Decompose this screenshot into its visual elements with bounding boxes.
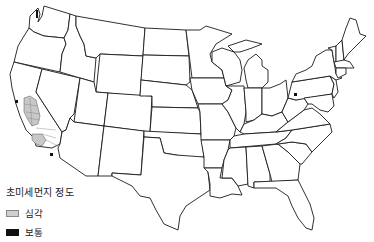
moderate-area-puget-sound <box>36 10 38 18</box>
state-kansas <box>150 107 201 134</box>
legend-label-severe: 심각 <box>25 206 43 220</box>
severe-swatch-icon <box>6 210 19 217</box>
state-wyoming <box>96 54 143 96</box>
state-florida <box>254 180 314 230</box>
moderate-area-pennsylvania <box>294 93 297 96</box>
legend-item-severe: 심각 <box>6 206 74 220</box>
legend: 초미세먼지 정도 심각 보통 <box>6 184 74 242</box>
legend-title: 초미세먼지 정도 <box>6 184 74 199</box>
state-montana <box>76 16 145 58</box>
state-maine <box>342 18 366 60</box>
state-colorado <box>104 93 152 132</box>
state-massachusetts <box>334 60 354 68</box>
legend-item-moderate: 보통 <box>6 225 74 239</box>
moderate-swatch-icon <box>6 229 19 236</box>
state-connecticut <box>336 68 346 78</box>
moderate-area-imperial <box>50 153 53 156</box>
state-north-dakota <box>143 28 189 56</box>
legend-label-moderate: 보통 <box>25 225 43 239</box>
state-new-mexico <box>98 126 144 176</box>
moderate-area-bay-area <box>15 100 18 103</box>
